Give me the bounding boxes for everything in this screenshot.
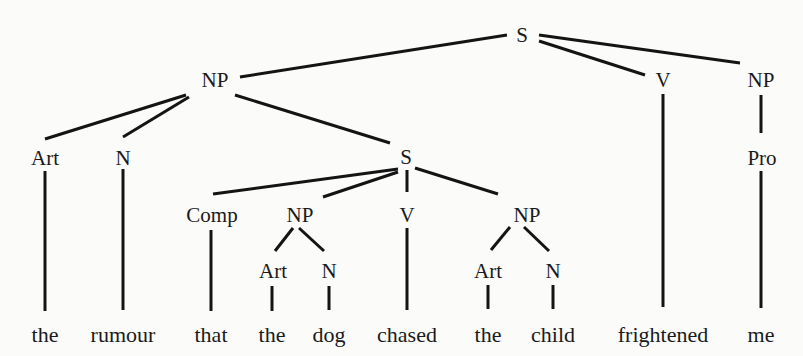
tree-edge [539,35,740,63]
tree-node-n: N [115,146,130,170]
syntax-tree: SNPVNPArtNSProCompNPVNPArtNArtN therumou… [0,0,803,356]
tree-node-np: NP [514,203,541,227]
tree-edge [299,228,324,251]
tree-node-comp: Comp [186,203,237,227]
tree-edge [415,168,498,194]
tree-nodes: SNPVNPArtNSProCompNPVNPArtNArtN [31,23,777,283]
tree-edge [491,227,510,250]
tree-node-np: NP [748,68,775,92]
tree-edges [45,35,761,311]
leaf-word: me [748,322,775,347]
tree-node-np: NP [287,203,314,227]
leaf-word: dog [313,322,346,347]
leaf-word: the [475,322,502,347]
tree-edge [524,227,549,251]
tree-edge [240,35,507,77]
tree-node-art: Art [31,146,59,170]
tree-node-art: Art [259,259,287,283]
tree-edge [45,95,186,139]
tree-node-n: N [545,259,560,283]
tree-edge [275,228,293,251]
leaf-word: frightened [618,322,708,347]
tree-edge [323,172,398,197]
tree-edge [235,95,390,143]
leaf-word: the [32,322,59,347]
sentence-words: therumourthatthedogchasedthechildfrighte… [32,322,775,347]
tree-node-s: S [516,23,528,47]
leaf-word: rumour [91,322,156,347]
leaf-word: chased [377,322,437,347]
leaf-word: the [259,322,286,347]
tree-node-art: Art [474,259,502,283]
tree-node-pro: Pro [747,146,776,170]
tree-node-n: N [321,259,336,283]
leaf-word: that [195,322,228,347]
tree-node-v: V [399,203,414,227]
tree-node-s: S [400,145,412,169]
leaf-word: child [531,322,575,347]
tree-node-np: NP [202,68,229,92]
tree-node-v: V [655,68,670,92]
